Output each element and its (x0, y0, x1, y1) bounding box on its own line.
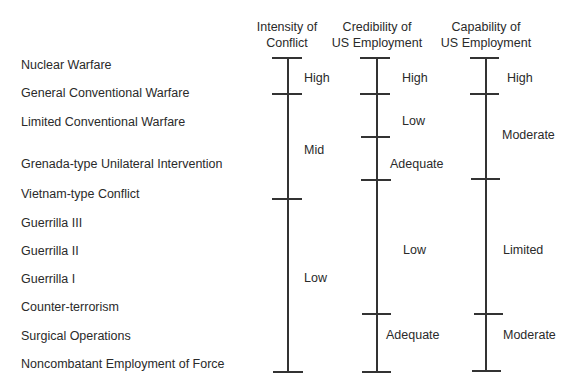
tick (362, 371, 391, 373)
segment-label: Moderate (503, 328, 556, 342)
segment-label: High (402, 71, 428, 85)
header-credibility-line1: Credibility of (332, 19, 422, 35)
tick (361, 136, 390, 138)
segment-label: High (507, 71, 533, 85)
tick (471, 178, 500, 180)
segment-label: Low (403, 243, 426, 257)
segment-label: Mid (304, 143, 324, 157)
row-label: Counter-terrorism (21, 300, 119, 314)
row-label: Guerrilla III (21, 216, 82, 230)
tick (470, 57, 499, 59)
tick (360, 57, 390, 59)
row-label: General Conventional Warfare (21, 86, 189, 100)
tick (273, 371, 303, 373)
row-label: Limited Conventional Warfare (21, 115, 185, 129)
row-label: Noncombatant Employment of Force (21, 357, 225, 371)
segment-label: High (304, 71, 330, 85)
header-credibility: Credibility of US Employment (332, 19, 422, 51)
header-intensity-line2: Conflict (257, 35, 317, 51)
header-capability-line2: US Employment (441, 35, 531, 51)
header-intensity: Intensity of Conflict (257, 19, 317, 51)
tick (272, 57, 302, 59)
header-capability: Capability of US Employment (441, 19, 531, 51)
header-credibility-line2: US Employment (332, 35, 422, 51)
axis-line (485, 57, 487, 370)
segment-label: Low (304, 271, 327, 285)
segment-label: Adequate (390, 157, 444, 171)
tick (361, 179, 391, 181)
header-capability-line1: Capability of (441, 19, 531, 35)
tick (360, 93, 390, 95)
tick (272, 198, 302, 200)
segment-label: Moderate (502, 128, 555, 142)
tick (472, 370, 501, 372)
header-intensity-line1: Intensity of (257, 19, 317, 35)
row-label: Guerrilla II (21, 244, 79, 258)
row-label: Vietnam-type Conflict (21, 187, 140, 201)
row-label: Surgical Operations (21, 329, 131, 343)
row-label: Grenada-type Unilateral Intervention (21, 157, 223, 171)
row-label: Guerrilla I (21, 272, 75, 286)
tick (362, 313, 391, 315)
axis-line (376, 57, 378, 371)
segment-label: Limited (503, 243, 543, 257)
segment-label: Adequate (386, 328, 440, 342)
tick (474, 313, 503, 315)
segment-label: Low (402, 114, 425, 128)
row-label: Nuclear Warfare (21, 58, 112, 72)
tick (272, 93, 302, 95)
axis-line (287, 57, 289, 371)
tick (470, 93, 499, 95)
